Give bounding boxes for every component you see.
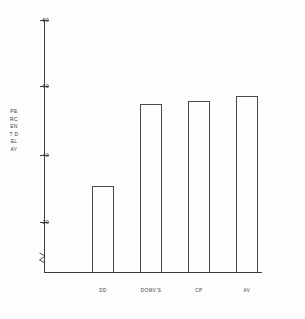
- bar-domvs: [140, 104, 162, 272]
- y-tick-mark-20: [40, 222, 49, 223]
- y-axis-line: [44, 20, 45, 272]
- bar-cp: [188, 101, 210, 272]
- y-tick-mark-40: [40, 155, 49, 156]
- x-label-dd: DD: [99, 288, 107, 293]
- y-tick-20: 20: [0, 219, 49, 225]
- bar-chart-figure: PERCENT DELAY 80 60 40 20 DD DOMV'S CP A…: [0, 0, 305, 319]
- y-tick-mark-80: [40, 20, 49, 21]
- bar-dd: [92, 186, 114, 272]
- y-axis-title: PERCENT DELAY: [9, 108, 19, 154]
- x-axis-line: [44, 272, 262, 273]
- x-label-domvs: DOMV'S: [141, 288, 162, 293]
- axis-break-icon: [38, 252, 51, 266]
- y-tick-60: 60: [0, 83, 49, 89]
- bar-av: [236, 96, 258, 272]
- y-tick-80: 80: [0, 17, 49, 23]
- x-label-cp: CP: [195, 288, 202, 293]
- y-tick-mark-60: [40, 86, 49, 87]
- x-label-av: AV: [244, 288, 251, 293]
- y-tick-40: 40: [0, 152, 49, 158]
